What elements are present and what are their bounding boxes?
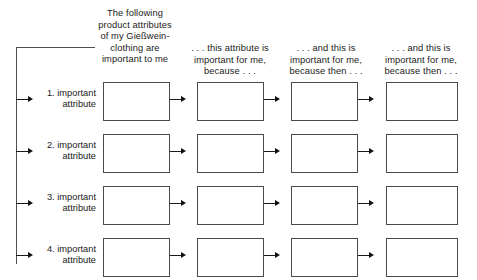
row-label-1: 1. important attribute [34,88,96,111]
connector-arrowhead-r4c3-c4 [369,252,374,258]
connector-arrowhead-r4c2-c3 [275,252,280,258]
connector-arrowhead-r3c3-c4 [369,200,374,206]
connector-arrowhead-r3c1-c2 [181,200,186,206]
row-label-4-line2: attribute [34,255,96,266]
bracket-arrowhead-row-4 [28,252,33,258]
cell-r3c1[interactable] [103,186,170,225]
cell-r2c4[interactable] [386,134,458,173]
connector-arrowhead-r3c2-c3 [275,200,280,206]
cell-r2c1[interactable] [103,134,170,173]
cell-r2c2[interactable] [197,134,264,173]
connector-arrowhead-r2c2-c3 [275,148,280,154]
row-label-3-line2: attribute [34,203,96,214]
row-label-3-line1: 3. important [47,192,96,202]
cell-r4c3[interactable] [291,238,358,277]
bracket-arrowhead-row-3 [28,200,33,206]
cell-r1c3[interactable] [291,82,358,121]
cell-r3c4[interactable] [386,186,458,225]
cell-r4c4[interactable] [386,238,458,277]
bracket-top-connector [16,47,95,48]
bracket-trunk-line [16,47,17,264]
cell-r4c2[interactable] [197,238,264,277]
connector-arrowhead-r1c2-c3 [275,96,280,102]
cell-r3c2[interactable] [197,186,264,225]
cell-r1c4[interactable] [386,82,458,121]
row-label-1-line1: 1. important [47,88,96,98]
column-header-consequence-2: . . . and this is important for me, beca… [285,43,367,78]
row-label-2-line2: attribute [34,151,96,162]
column-header-value: . . . and this is important for me, beca… [378,43,464,78]
row-label-3: 3. important attribute [34,192,96,215]
column-header-attributes: The following product attributes of my G… [96,8,174,66]
bracket-arrowhead-row-1 [28,96,33,102]
connector-arrowhead-r1c1-c2 [181,96,186,102]
row-label-4-line1: 4. important [47,244,96,254]
connector-arrowhead-r4c1-c2 [181,252,186,258]
column-header-consequence-1: . . . this attribute is important for me… [190,43,270,78]
connector-arrowhead-r1c3-c4 [369,96,374,102]
laddering-diagram: The following product attributes of my G… [0,0,477,280]
row-label-1-line2: attribute [34,99,96,110]
row-label-2-line1: 2. important [47,140,96,150]
cell-r3c3[interactable] [291,186,358,225]
bracket-arrowhead-row-2 [28,148,33,154]
cell-r2c3[interactable] [291,134,358,173]
cell-r4c1[interactable] [103,238,170,277]
row-label-2: 2. important attribute [34,140,96,163]
row-label-4: 4. important attribute [34,244,96,267]
cell-r1c1[interactable] [103,82,170,121]
connector-arrowhead-r2c3-c4 [369,148,374,154]
cell-r1c2[interactable] [197,82,264,121]
connector-arrowhead-r2c1-c2 [181,148,186,154]
